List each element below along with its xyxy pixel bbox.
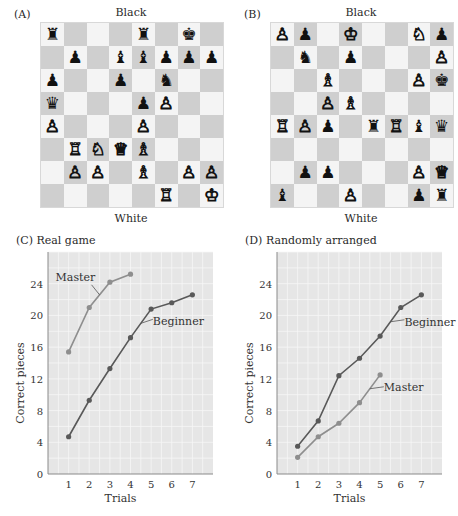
board-square: ♙ [64, 161, 87, 184]
y-tick-label: 8 [37, 406, 43, 417]
board-square: ♛ [430, 115, 453, 138]
white-pawn-icon: ♙ [90, 164, 105, 181]
board-square [294, 69, 317, 92]
white-pawn-icon: ♙ [298, 118, 313, 135]
data-point-beginner [149, 306, 154, 311]
data-point-master [87, 305, 92, 310]
board-square [87, 184, 110, 207]
board-square [178, 184, 201, 207]
white-rook-icon: ♖ [275, 118, 290, 135]
data-point-beginner [336, 373, 341, 378]
black-bishop-icon: ♝ [411, 118, 426, 135]
white-pawn-icon: ♙ [68, 164, 83, 181]
black-pawn-icon: ♟ [68, 49, 83, 66]
black-rook-icon: ♜ [366, 118, 381, 135]
data-point-beginner [66, 434, 71, 439]
board-square: ♜ [430, 184, 453, 207]
board-square [109, 92, 132, 115]
data-point-beginner [378, 333, 383, 338]
white-pawn-icon: ♙ [181, 164, 196, 181]
x-tick-label: 6 [398, 479, 404, 490]
white-pawn-icon: ♙ [411, 164, 426, 181]
board-square [64, 69, 87, 92]
board-square [408, 138, 431, 161]
board-square [271, 46, 294, 69]
y-tick-label: 12 [30, 374, 43, 385]
board-square: ♟ [294, 161, 317, 184]
board-square: ♟ [408, 184, 431, 207]
board-square: ♔ [200, 184, 223, 207]
white-pawn-icon: ♙ [320, 95, 335, 112]
white-pawn-icon: ♙ [204, 164, 219, 181]
black-pawn-icon: ♟ [204, 49, 219, 66]
data-point-master [295, 455, 300, 460]
board-square [87, 115, 110, 138]
board-square [317, 184, 340, 207]
data-point-master [66, 349, 71, 354]
black-pawn-icon: ♟ [320, 164, 335, 181]
board-square: ♙ [294, 115, 317, 138]
board-square [178, 115, 201, 138]
board-square [41, 184, 64, 207]
chart-randomly-arranged: (D) Randomly arranged 048121620241234567… [229, 230, 458, 516]
board-square: ♗ [317, 69, 340, 92]
board-square [109, 115, 132, 138]
board-square: ♙ [132, 115, 155, 138]
board-square [317, 138, 340, 161]
board-square [64, 115, 87, 138]
white-bishop-icon: ♗ [136, 141, 151, 158]
board-square [339, 69, 362, 92]
board-square [200, 115, 223, 138]
y-tick-label: 24 [30, 279, 43, 290]
board-square: ♖ [155, 184, 178, 207]
y-tick-label: 20 [30, 310, 43, 321]
board-square: ♕ [430, 161, 453, 184]
white-knight-icon: ♘ [411, 26, 426, 43]
chess-board-b: ♙♟♔♘♟♞♟♙♗♙♚♙♗♖♙♟♜♖♝♛♟♟♙♕♝♙♟♜ [270, 22, 454, 208]
board-square [87, 92, 110, 115]
x-axis-label: Trials [334, 492, 366, 505]
board-square [385, 184, 408, 207]
board-square [200, 138, 223, 161]
board-square: ♟ [339, 46, 362, 69]
board-square: ♚ [178, 23, 201, 46]
black-knight-icon: ♞ [298, 49, 313, 66]
board-square [271, 161, 294, 184]
y-tick-label: 0 [37, 469, 43, 480]
data-point-beginner [87, 398, 92, 403]
board-square [271, 69, 294, 92]
x-tick-label: 6 [169, 479, 175, 490]
board-square: ♟ [41, 69, 64, 92]
board-square: ♖ [385, 115, 408, 138]
board-square: ♞ [155, 69, 178, 92]
white-rook-icon: ♖ [68, 141, 83, 158]
board-square: ♖ [271, 115, 294, 138]
board-square: ♗ [339, 92, 362, 115]
board-square [362, 161, 385, 184]
board-square [294, 138, 317, 161]
board-square [339, 138, 362, 161]
board-square [87, 23, 110, 46]
black-pawn-icon: ♟ [343, 49, 358, 66]
board-square: ♜ [132, 23, 155, 46]
board-square [362, 138, 385, 161]
board-square [294, 184, 317, 207]
black-pawn-icon: ♟ [181, 49, 196, 66]
board-square: ♙ [408, 69, 431, 92]
board-square [132, 69, 155, 92]
board-square [155, 23, 178, 46]
black-pawn-icon: ♟ [298, 164, 313, 181]
white-pawn-icon: ♙ [275, 26, 290, 43]
board-square [109, 184, 132, 207]
board-square: ♗ [132, 161, 155, 184]
board-square [317, 23, 340, 46]
white-bishop-icon: ♗ [343, 95, 358, 112]
board-square: ♟ [200, 46, 223, 69]
board-b-black-label: Black [270, 6, 452, 19]
white-bishop-icon: ♗ [320, 72, 335, 89]
black-king-icon: ♚ [434, 72, 449, 89]
board-square: ♙ [271, 23, 294, 46]
series-label-master: Master [384, 381, 424, 394]
white-rook-icon: ♖ [159, 187, 174, 204]
data-point-beginner [107, 366, 112, 371]
